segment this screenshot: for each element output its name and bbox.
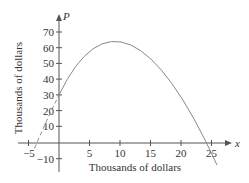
y-tick-label: 60 [43,42,55,54]
profit-chart: −5 5 10 15 20 25 70 60 50 40 30 20 10 −1… [0,0,249,183]
curve-dashed-segment [35,95,59,148]
y-axis-variable: P [62,10,70,22]
x-axis-variable: x [234,137,240,149]
x-tick-label: 5 [87,147,93,159]
y-axis-arrow-icon [56,14,62,21]
y-tick-label: 40 [43,73,55,85]
x-tick-label: −5 [23,147,35,159]
y-axis-title: Thousands of dollars [12,42,24,134]
curve-solid-segment [59,41,217,165]
x-tick-label: 15 [145,147,157,159]
y-tick-label: 30 [43,89,55,101]
y-tick-label: 10 [43,120,55,132]
y-tick-label: 50 [43,57,55,69]
x-tick-label: 10 [115,147,127,159]
x-axis-arrow-icon [225,140,232,146]
y-tick-label: 70 [43,26,55,38]
x-axis-title: Thousands of dollars [89,161,181,173]
y-tick-label: 20 [43,105,55,117]
y-tick-label: −10 [37,153,55,165]
x-tick-label: 20 [176,147,188,159]
